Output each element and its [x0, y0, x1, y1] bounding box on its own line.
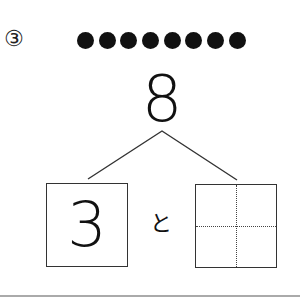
- connector-to: と: [150, 210, 172, 238]
- divider: [0, 295, 300, 297]
- right-part-value: [196, 185, 276, 267]
- left-part-value: 3: [47, 184, 127, 266]
- left-part-box: 3: [46, 183, 128, 267]
- right-part-answer-box[interactable]: [195, 184, 277, 268]
